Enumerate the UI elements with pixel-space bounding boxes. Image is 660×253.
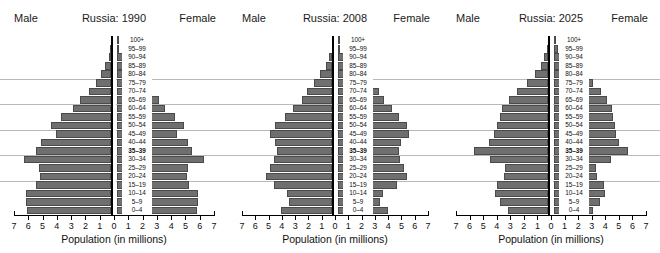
age-group-label: 15–19 <box>559 181 589 190</box>
age-group-label: 85–89 <box>343 62 373 71</box>
bar-male <box>96 79 112 87</box>
x-axis-tick-label: 6 <box>630 221 635 231</box>
x-axis-tick-label: 2 <box>140 221 145 231</box>
age-group-label: 50–54 <box>343 121 373 130</box>
x-axis-tick <box>242 211 243 216</box>
bar-male <box>277 147 333 155</box>
age-group-label: 65–69 <box>559 96 589 105</box>
age-group-label: 30–34 <box>343 155 373 164</box>
bar-male <box>41 139 111 147</box>
chart-title: Russia: 1990 <box>82 12 146 24</box>
age-group-label: 35–39 <box>122 147 152 156</box>
chart-title: Russia: 2025 <box>519 12 583 24</box>
bar-male <box>314 79 333 87</box>
bar-male <box>275 122 332 130</box>
bar-male <box>289 198 333 206</box>
x-axis-tick <box>85 215 86 220</box>
x-axis-tick-label: 4 <box>54 221 59 231</box>
x-axis-tick <box>322 215 323 220</box>
age-group-label: 45–49 <box>343 130 373 139</box>
age-group-axis: 100+95–9990–9485–8980–8475–7970–7465–696… <box>343 36 373 215</box>
age-group-label: 100+ <box>559 36 589 45</box>
bar-male <box>495 190 548 198</box>
x-axis-tick <box>362 215 363 220</box>
x-axis-tick <box>632 215 633 220</box>
x-axis-tick <box>565 215 566 220</box>
age-group-label: 0–4 <box>122 206 152 215</box>
x-axis-tick-label: 5 <box>616 221 621 231</box>
age-group-label: 10–14 <box>343 189 373 198</box>
age-group-axis: 100+95–9990–9485–8980–8475–7970–7465–696… <box>559 36 589 215</box>
x-axis-tick-label: 3 <box>69 221 74 231</box>
x-axis-tick-label: 2 <box>359 221 364 231</box>
x-axis-tick-label: 5 <box>399 221 404 231</box>
age-group-label: 95–99 <box>559 45 589 54</box>
age-group-label: 55–59 <box>343 113 373 122</box>
age-group-label: 100+ <box>122 36 152 45</box>
age-group-label: 70–74 <box>343 87 373 96</box>
age-group-label: 50–54 <box>559 121 589 130</box>
x-axis-title: Population (in millions) <box>442 233 660 245</box>
age-group-label: 70–74 <box>559 87 589 96</box>
x-axis-tick-label: 1 <box>535 221 540 231</box>
age-group-label: 50–54 <box>122 121 152 130</box>
x-axis-tick <box>456 211 457 216</box>
x-axis-tick <box>375 215 376 220</box>
female-label: Female <box>179 12 216 24</box>
age-group-label: 5–9 <box>559 198 589 207</box>
x-axis-tick-label: 0 <box>332 221 337 231</box>
x-axis-tick-label: 6 <box>197 221 202 231</box>
age-group-label: 0–4 <box>343 206 373 215</box>
age-group-axis: 100+95–9990–9485–8980–8475–7970–7465–696… <box>122 36 152 215</box>
x-axis-tick <box>335 215 336 220</box>
age-group-label: 25–29 <box>343 164 373 173</box>
x-axis-tick-label: 5 <box>40 221 45 231</box>
x-axis-tick <box>348 215 349 220</box>
age-group-label: 45–49 <box>559 130 589 139</box>
bar-male <box>293 105 333 113</box>
age-group-label: 30–34 <box>122 155 152 164</box>
x-axis-tick-label: 6 <box>26 221 31 231</box>
x-axis-tick <box>100 215 101 220</box>
x-axis-tick <box>646 211 647 216</box>
x-axis-tick-label: 1 <box>346 221 351 231</box>
chart-title: Russia: 2008 <box>303 12 367 24</box>
x-axis-tick-label: 5 <box>183 221 188 231</box>
x-axis-tick-label: 0 <box>548 221 553 231</box>
plot-area <box>442 36 660 215</box>
bar-female <box>338 36 340 44</box>
x-axis-tick-label: 3 <box>589 221 594 231</box>
plot-area <box>0 36 228 215</box>
bar-male <box>287 190 332 198</box>
age-group-label: 5–9 <box>343 198 373 207</box>
age-group-label: 60–64 <box>122 104 152 113</box>
x-axis-tick-label: 0 <box>111 221 116 231</box>
age-group-label: 95–99 <box>343 45 373 54</box>
age-group-label: 55–59 <box>122 113 152 122</box>
x-axis-tick <box>71 215 72 220</box>
bar-male <box>270 164 332 172</box>
age-group-label: 65–69 <box>343 96 373 105</box>
age-group-label: 60–64 <box>343 104 373 113</box>
age-group-label: 65–69 <box>122 96 152 105</box>
age-group-label: 30–34 <box>559 155 589 164</box>
age-group-label: 80–84 <box>559 70 589 79</box>
female-label: Female <box>393 12 430 24</box>
age-group-label: 20–24 <box>122 172 152 181</box>
x-axis-tick-label: 1 <box>319 221 324 231</box>
bar-male <box>24 156 111 164</box>
x-axis-tick-label: 4 <box>386 221 391 231</box>
x-axis-tick <box>214 211 215 216</box>
panel-header: MaleRussia: 2008Female <box>228 12 442 26</box>
center-axis-line <box>332 36 333 215</box>
male-label: Male <box>14 12 38 24</box>
x-axis-tick <box>524 215 525 220</box>
bar-male <box>270 130 332 138</box>
x-axis-tick <box>605 215 606 220</box>
bar-male <box>27 207 111 215</box>
age-group-label: 75–79 <box>559 79 589 88</box>
panel-header: MaleRussia: 1990Female <box>0 12 228 26</box>
x-axis-tick <box>282 215 283 220</box>
bar-male <box>307 88 332 96</box>
bar-male <box>508 207 549 215</box>
